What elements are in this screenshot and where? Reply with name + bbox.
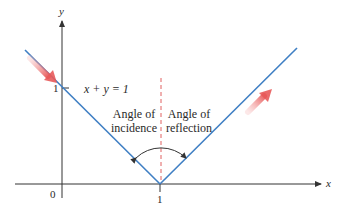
origin-label: 0 — [50, 189, 56, 200]
x-tick-label-1: 1 — [157, 194, 163, 205]
angle-of-incidence-label: Angle of incidence — [111, 107, 157, 135]
angle-of-reflection-label: Angle of reflection — [166, 107, 212, 135]
angle-of-reflection-line1: Angle of — [166, 107, 212, 121]
angle-of-incidence-line2: incidence — [111, 121, 157, 135]
angle-of-incidence-line1: Angle of — [111, 107, 157, 121]
y-tick-label-1: 1 — [53, 83, 59, 94]
angle-of-reflection-line2: reflection — [166, 121, 212, 135]
x-axis-label: x — [326, 178, 331, 189]
equation-label: x + y = 1 — [84, 83, 129, 95]
diagram-canvas — [0, 0, 338, 205]
y-axis-label: y — [59, 6, 64, 17]
reflection-diagram: y x 0 1 1 x + y = 1 Angle of incidence A… — [0, 0, 338, 205]
incoming-direction-arrow — [30, 58, 57, 83]
